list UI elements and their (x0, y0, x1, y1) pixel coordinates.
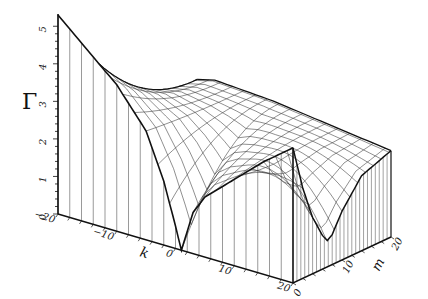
surface-plot: 012345 Γ −20−1001020 k 01020 m (0, 0, 428, 299)
gamma-tick-label: 4 (37, 64, 48, 71)
m-tick-label: 0 (291, 287, 304, 298)
k-axis-title: k (138, 244, 151, 262)
k-tick-label: 0 (165, 247, 175, 260)
front-skirt-hatching (58, 15, 293, 283)
k-tick-label: 10 (217, 262, 233, 276)
k-tick-label: −20 (33, 208, 57, 225)
m-axis-title: m (368, 255, 387, 273)
gamma-axis: 012345 Γ (22, 14, 58, 220)
k-tick-label: −10 (92, 225, 116, 242)
gamma-tick-label: 5 (37, 26, 48, 32)
gamma-tick-label: 1 (37, 176, 48, 182)
surface-mesh (99, 64, 389, 250)
gamma-axis-title: Γ (22, 89, 37, 114)
gamma-tick-label: 3 (37, 101, 48, 107)
k-axis: −20−1001020 k (33, 208, 293, 294)
surface-outline (58, 15, 391, 283)
gamma-tick-label: 2 (37, 139, 48, 146)
